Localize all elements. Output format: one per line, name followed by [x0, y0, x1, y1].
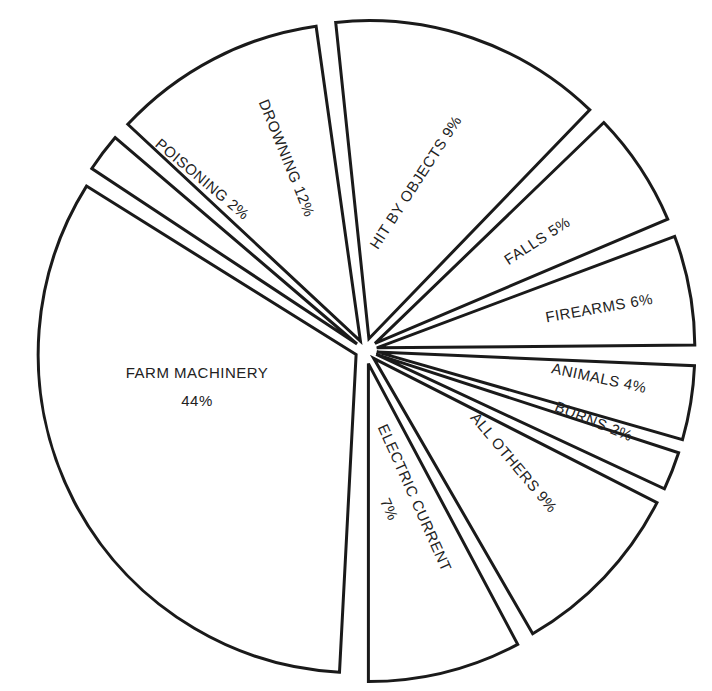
pie-chart: FARM MACHINERY44%POISONING 2%DROWNING 12… [0, 0, 712, 691]
pie-wedges [38, 21, 695, 682]
